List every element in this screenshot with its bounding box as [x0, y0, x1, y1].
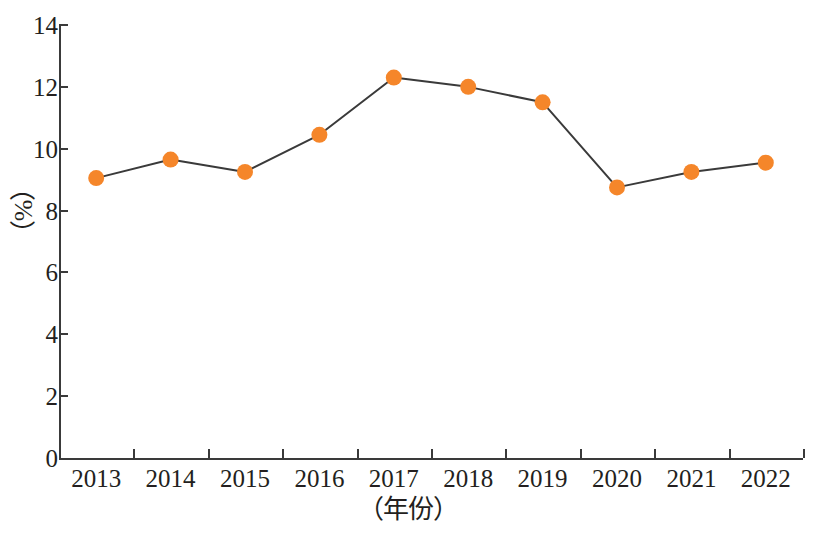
- line-chart: （%） 02468101214 201320142015201620172018…: [0, 0, 815, 534]
- data-point: [88, 170, 104, 186]
- data-point: [163, 152, 179, 168]
- data-point: [386, 70, 402, 86]
- data-point: [683, 164, 699, 180]
- data-point: [535, 94, 551, 110]
- series-layer: [0, 0, 815, 534]
- data-point: [609, 179, 625, 195]
- data-point: [237, 164, 253, 180]
- data-point: [311, 127, 327, 143]
- data-point: [460, 79, 476, 95]
- series-line: [96, 78, 766, 188]
- data-point: [758, 155, 774, 171]
- cropped-caption: [0, 526, 815, 534]
